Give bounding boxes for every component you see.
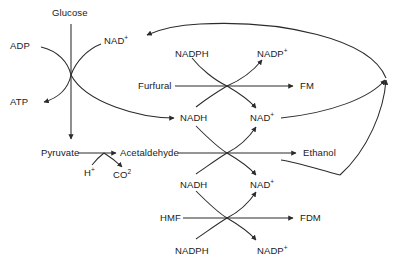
node-carbon-dioxide: CO2 xyxy=(113,170,131,180)
node-nadph-furfural: NADPH xyxy=(175,49,209,59)
edge-cross-to-nad-ethanol xyxy=(227,127,256,153)
node-acetaldehyde: Acetaldehyde xyxy=(120,148,179,158)
node-pyruvate: Pyruvate xyxy=(41,148,79,158)
pathway-edges xyxy=(0,0,395,273)
pathway-diagram: Glucose ADP NAD+ ATP NADPH NADP+ Furfura… xyxy=(0,0,395,273)
edge-nad-furfural-to-recycle xyxy=(281,80,385,118)
node-ethanol: Ethanol xyxy=(303,148,336,158)
node-nad-plus-furfural: NAD+ xyxy=(250,113,274,123)
edge-cross-to-nad-hmf-down xyxy=(227,153,256,175)
node-glucose: Glucose xyxy=(52,8,88,18)
node-nadp-plus-furfural: NADP+ xyxy=(257,49,288,59)
edge-nad-ethanol-tail xyxy=(281,160,340,175)
node-proton: H+ xyxy=(84,168,95,178)
edge-nadh-to-cross-furfural xyxy=(196,86,227,107)
node-fdm: FDM xyxy=(300,213,321,223)
node-nad-plus-hmf: NAD+ xyxy=(250,180,274,190)
edge-nad-ethanol-to-recycle xyxy=(340,80,386,175)
edge-cross-to-nad-hmf-up xyxy=(227,192,256,218)
edge-nadh-hmf-to-cross-ethanol xyxy=(196,153,227,174)
edge-cross-to-nadp-hmf xyxy=(227,218,256,240)
node-adp: ADP xyxy=(10,41,30,51)
edge-atp-out xyxy=(44,75,71,102)
edge-nadh-furfural-to-cross-ethanol xyxy=(196,126,227,153)
edge-adp-in xyxy=(41,47,71,75)
edge-nadplus-in xyxy=(71,44,101,75)
edge-cross-to-nad-furfural xyxy=(227,86,256,108)
node-hmf: HMF xyxy=(160,213,181,223)
node-nadh-furfural: NADH xyxy=(180,113,207,123)
edge-proton-in xyxy=(92,153,104,165)
node-nadh-hmf: NADH xyxy=(180,180,207,190)
node-furfural: Furfural xyxy=(138,81,172,91)
node-fm: FM xyxy=(300,81,314,91)
edge-nadph-to-cross-furfural xyxy=(192,58,227,86)
edge-nadh-hmf-to-cross xyxy=(196,191,227,218)
node-atp: ATP xyxy=(10,97,28,107)
edge-nadph-hmf-to-cross xyxy=(196,218,227,239)
edge-cross-to-nadp-furfural xyxy=(227,60,262,86)
node-nad-plus-glycolysis: NAD+ xyxy=(104,36,128,46)
node-nadp-plus-hmf: NADP+ xyxy=(257,246,288,256)
node-nadph-hmf: NADPH xyxy=(175,246,209,256)
